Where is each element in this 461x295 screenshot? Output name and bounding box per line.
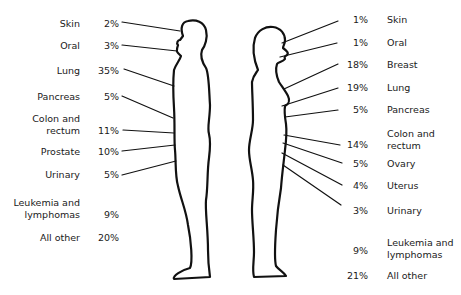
male-pct-oral: 3% bbox=[79, 40, 119, 52]
male-site-colon-line2: rectum bbox=[0, 125, 80, 137]
male-site-all-other: All other bbox=[0, 232, 80, 244]
female-site-colon-line2: rectum bbox=[387, 140, 421, 152]
female-site-skin: Skin bbox=[387, 14, 407, 26]
female-site-all-other: All other bbox=[387, 270, 427, 282]
female-pct-lung: 19% bbox=[328, 82, 368, 94]
female-site-breast: Breast bbox=[387, 59, 418, 71]
male-site-oral: Oral bbox=[0, 40, 80, 52]
female-site-colon-line1: Colon and bbox=[387, 128, 435, 140]
female-silhouette bbox=[249, 27, 289, 277]
male-pct-leukemia: 9% bbox=[79, 209, 119, 221]
male-pct-skin: 2% bbox=[79, 18, 119, 30]
female-site-oral: Oral bbox=[387, 37, 407, 49]
male-site-lung: Lung bbox=[0, 65, 80, 77]
female-pct-uterus: 4% bbox=[328, 180, 368, 192]
female-pct-pancreas: 5% bbox=[328, 104, 368, 116]
female-site-leukemia-line2: lymphomas bbox=[387, 249, 442, 261]
female-pct-ovary: 5% bbox=[328, 158, 368, 170]
male-pct-all-other: 20% bbox=[79, 232, 119, 244]
male-site-prostate: Prostate bbox=[0, 146, 80, 158]
male-site-urinary: Urinary bbox=[0, 169, 80, 181]
male-pct-urinary: 5% bbox=[79, 169, 119, 181]
female-site-pancreas: Pancreas bbox=[387, 104, 430, 116]
male-site-leukemia-line1: Leukemia and bbox=[0, 197, 80, 209]
male-site-leukemia-line2: lymphomas bbox=[0, 209, 80, 221]
male-site-skin: Skin bbox=[0, 18, 80, 30]
female-pct-skin: 1% bbox=[328, 14, 368, 26]
female-site-uterus: Uterus bbox=[387, 180, 418, 192]
male-site-pancreas: Pancreas bbox=[0, 91, 80, 103]
female-site-lung: Lung bbox=[387, 82, 410, 94]
female-pct-urinary: 3% bbox=[328, 205, 368, 217]
male-pct-lung: 35% bbox=[79, 65, 119, 77]
female-pct-all-other: 21% bbox=[328, 270, 368, 282]
female-pct-colon: 14% bbox=[328, 139, 368, 151]
female-pct-breast: 18% bbox=[328, 59, 368, 71]
female-site-urinary: Urinary bbox=[387, 205, 422, 217]
female-pct-oral: 1% bbox=[328, 37, 368, 49]
male-pct-colon: 11% bbox=[79, 125, 119, 137]
female-site-leukemia-line1: Leukemia and bbox=[387, 237, 454, 249]
female-site-ovary: Ovary bbox=[387, 158, 415, 170]
male-site-colon-line1: Colon and bbox=[0, 113, 80, 125]
female-pct-leukemia: 9% bbox=[328, 245, 368, 257]
male-leader-lines bbox=[122, 22, 180, 175]
male-pct-pancreas: 5% bbox=[79, 91, 119, 103]
male-silhouette bbox=[173, 20, 210, 279]
male-pct-prostate: 10% bbox=[79, 146, 119, 158]
